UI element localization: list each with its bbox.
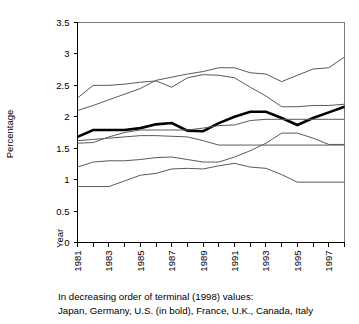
x-tick-label: 1993: [260, 251, 271, 272]
caption-line-2: Japan, Germany, U.S. (in bold), France, …: [58, 305, 313, 316]
line-chart: 00.511.522.533.5 19811983198519871989199…: [0, 0, 359, 324]
x-tick-label: 1997: [323, 251, 334, 272]
y-tick-label: 0.5: [56, 206, 69, 217]
x-tick-label: 1981: [72, 251, 83, 272]
y-axis-ticks: [74, 23, 78, 243]
caption-line-1: In decreasing order of terminal (1998) v…: [58, 291, 253, 302]
series-line-canada: [78, 133, 345, 167]
series-line-u-k: [78, 136, 345, 145]
x-axis-corner-label: Year: [54, 229, 65, 248]
plot-frame: [78, 23, 345, 243]
y-tick-label: 2: [64, 111, 69, 122]
series-line-italy: [78, 163, 345, 186]
x-tick-label: 1989: [198, 251, 209, 272]
chart-figure: 00.511.522.533.5 19811983198519871989199…: [0, 0, 359, 324]
y-tick-label: 3: [64, 48, 69, 59]
y-tick-label: 2.5: [56, 80, 69, 91]
y-axis-tick-labels: 00.511.522.533.5: [56, 17, 69, 248]
series-line-japan: [78, 57, 345, 110]
x-tick-label: 1991: [229, 251, 240, 272]
y-axis-title: Percentage: [4, 110, 15, 159]
x-axis-ticks: [78, 243, 345, 247]
series-line-u-s: [78, 107, 345, 137]
x-tick-label: 1985: [135, 251, 146, 272]
series-line-germany: [78, 75, 345, 107]
x-axis-tick-labels: 198119831985198719891991199319951997: [72, 251, 334, 272]
series-lines: [78, 57, 345, 186]
x-tick-label: 1995: [292, 251, 303, 272]
y-tick-label: 1.5: [56, 143, 69, 154]
x-tick-label: 1983: [103, 251, 114, 272]
y-tick-label: 1: [64, 174, 69, 185]
y-tick-label: 3.5: [56, 17, 69, 28]
x-tick-label: 1987: [166, 251, 177, 272]
